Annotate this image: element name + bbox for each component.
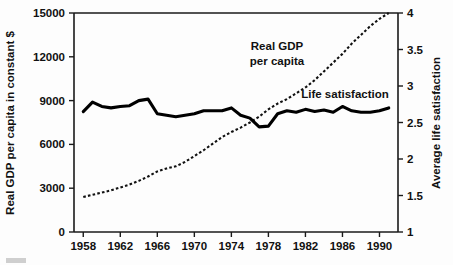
caption-fragment — [6, 258, 26, 263]
chart-figure: 03000600090001200015000 11.522.533.54 19… — [0, 0, 453, 265]
right-tick-label: 2 — [407, 153, 413, 165]
series-life-satisfaction — [83, 99, 388, 127]
annotation-real-gdp-line1: Real GDP — [251, 40, 304, 52]
right-axis-title: Average life satisfaction — [430, 57, 442, 189]
left-axis-ticks: 03000600090001200015000 — [33, 7, 74, 238]
left-tick-label: 9000 — [39, 95, 65, 107]
x-tick-label: 1958 — [70, 240, 96, 252]
right-tick-label: 2.5 — [407, 117, 424, 129]
left-tick-label: 15000 — [33, 7, 65, 19]
right-tick-label: 1 — [407, 226, 414, 238]
right-tick-label: 1.5 — [407, 190, 424, 202]
x-tick-label: 1982 — [293, 240, 319, 252]
x-tick-label: 1970 — [182, 240, 208, 252]
annotation-real-gdp-line2: per capita — [250, 55, 305, 67]
right-tick-label: 4 — [407, 7, 414, 19]
left-tick-label: 6000 — [39, 138, 65, 150]
x-tick-label: 1962 — [107, 240, 133, 252]
x-tick-label: 1966 — [145, 240, 171, 252]
left-tick-label: 0 — [59, 226, 65, 238]
right-axis-ticks: 11.522.533.54 — [398, 7, 424, 238]
gdp-vs-life-satisfaction-chart: 03000600090001200015000 11.522.533.54 19… — [0, 0, 453, 265]
left-tick-label: 3000 — [39, 182, 65, 194]
plot-frame — [74, 13, 398, 232]
x-tick-label: 1974 — [219, 240, 245, 252]
x-tick-label: 1986 — [330, 240, 356, 252]
left-tick-label: 12000 — [33, 51, 65, 63]
right-tick-label: 3 — [407, 80, 413, 92]
annotation-life-satisfaction: Life satisfaction — [301, 88, 389, 100]
x-tick-label: 1990 — [367, 240, 393, 252]
bottom-axis-ticks: 195819621966197019741978198219861990 — [70, 232, 392, 252]
left-axis-title: Real GDP per capita in constant $ — [4, 30, 16, 214]
x-tick-label: 1978 — [256, 240, 282, 252]
right-tick-label: 3.5 — [407, 44, 424, 56]
